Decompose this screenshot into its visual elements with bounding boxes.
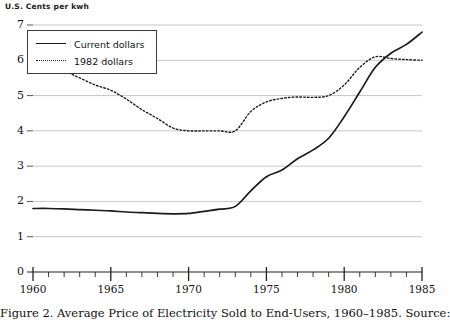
y-axis-tick-7: 7 [8,18,24,31]
y-axis-tick-1: 1 [8,230,24,243]
legend-entry-current-dollars: Current dollars [36,37,145,51]
x-axis [27,267,422,281]
x-axis-tick-1975: 1975 [246,283,286,295]
legend-label-1982-dollars: 1982 dollars [74,56,133,67]
x-axis-tick-1970: 1970 [169,283,209,295]
legend-key-solid-line-icon [36,39,66,49]
figure-caption: Figure 2. Average Price of Electricity S… [0,306,437,320]
x-axis-tick-1965: 1965 [91,283,131,295]
y-axis-tick-6: 6 [8,53,24,66]
legend-label-current-dollars: Current dollars [74,39,145,50]
x-axis-tick-1980: 1980 [324,283,364,295]
y-axis-tick-0: 0 [8,265,24,278]
chart-legend: Current dollars 1982 dollars [27,30,157,74]
y-axis-tick-2: 2 [8,194,24,207]
x-axis-tick-1985: 1985 [402,283,442,295]
legend-entry-1982-dollars: 1982 dollars [36,54,133,68]
y-axis-tick-5: 5 [8,89,24,102]
x-axis-tick-1960: 1960 [13,283,53,295]
legend-key-dotted-line-icon [36,56,66,66]
y-axis-tick-3: 3 [8,159,24,172]
y-axis-tick-4: 4 [8,124,24,137]
